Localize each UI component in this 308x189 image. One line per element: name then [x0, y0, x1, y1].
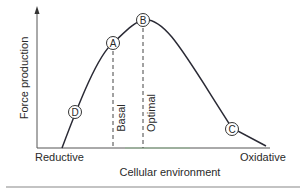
y-axis-arrow-icon — [35, 6, 40, 14]
force-production-diagram: D A B C Force production Basal Optimal R… — [0, 0, 308, 189]
svg-text:D: D — [71, 107, 78, 118]
point-d: D — [69, 106, 82, 119]
y-axis-label: Force production — [18, 37, 30, 120]
x-left-label: Reductive — [35, 151, 84, 163]
x-axis-label: Cellular environment — [120, 166, 221, 178]
point-c: C — [226, 123, 239, 136]
svg-text:A: A — [110, 38, 117, 49]
point-a: A — [107, 37, 120, 50]
svg-text:B: B — [140, 15, 147, 26]
x-right-label: Oxidative — [240, 151, 286, 163]
svg-text:C: C — [228, 124, 235, 135]
optimal-label: Optimal — [145, 94, 157, 132]
point-b: B — [137, 14, 150, 27]
basal-label: Basal — [115, 104, 127, 132]
